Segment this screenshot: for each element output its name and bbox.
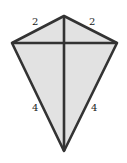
label-bottom-left: 4 [32,102,38,113]
kite-diagram: 2 2 4 4 [0,0,127,163]
label-bottom-right: 4 [91,102,97,113]
label-top-left: 2 [32,16,38,27]
label-top-right: 2 [89,16,95,27]
